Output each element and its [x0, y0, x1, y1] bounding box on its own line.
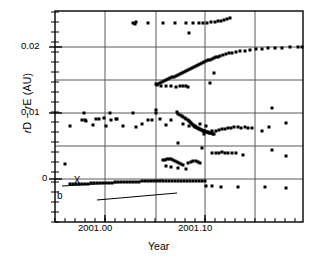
data-point — [186, 180, 189, 183]
data-point — [141, 123, 144, 126]
data-point — [235, 51, 238, 54]
data-point — [297, 46, 300, 49]
data-point — [244, 50, 247, 53]
data-point — [261, 130, 264, 133]
data-point — [218, 152, 221, 155]
data-point — [187, 162, 190, 165]
data-point — [185, 22, 188, 25]
data-point — [198, 180, 201, 183]
data-point — [249, 49, 252, 52]
data-point — [211, 185, 214, 188]
data-point — [227, 127, 230, 130]
data-point — [185, 168, 188, 171]
data-point — [175, 86, 178, 89]
data-point — [132, 112, 135, 115]
data-point — [255, 48, 258, 51]
data-point — [211, 152, 214, 155]
data-point — [195, 180, 198, 183]
data-point — [221, 128, 224, 131]
data-point — [182, 123, 185, 126]
data-point — [165, 85, 168, 88]
x-axis-label: Year — [148, 240, 169, 252]
y-axis-label-unit: (AU) — [21, 73, 33, 99]
data-point — [135, 126, 138, 129]
data-point — [289, 46, 292, 49]
data-point — [92, 124, 95, 127]
axis-ticks — [49, 12, 295, 222]
data-point — [165, 124, 168, 127]
data-point — [95, 118, 98, 121]
data-point — [281, 47, 284, 50]
data-point — [224, 128, 227, 131]
data-point — [105, 125, 108, 128]
data-point — [188, 32, 191, 35]
data-point — [271, 149, 274, 152]
data-point — [170, 166, 173, 169]
figure-scatter-plot: X rD − rE (AU) Year 2001.00 2001.10 0.02… — [0, 0, 312, 261]
data-point — [231, 52, 234, 55]
data-point — [237, 126, 240, 129]
data-point — [83, 112, 86, 115]
data-point — [205, 125, 208, 128]
y-axis-label-e: E — [21, 98, 33, 105]
data-point — [165, 180, 168, 183]
data-point — [147, 22, 150, 25]
data-point — [198, 22, 201, 25]
data-point — [206, 22, 209, 25]
data-point — [215, 130, 218, 133]
data-point — [174, 22, 177, 25]
data-point — [274, 47, 277, 50]
annotation-label-a: b — [57, 190, 63, 201]
y-tick-label-0-01: 0.01 — [21, 106, 40, 117]
data-point — [230, 127, 233, 130]
data-point — [81, 119, 84, 122]
data-point — [205, 185, 208, 188]
data-point — [268, 126, 271, 129]
data-point — [180, 180, 183, 183]
data-point — [237, 186, 240, 189]
data-point — [110, 119, 113, 122]
data-point — [192, 180, 195, 183]
data-point — [69, 125, 72, 128]
data-point — [218, 129, 221, 132]
data-point — [116, 118, 119, 121]
data-point — [162, 22, 165, 25]
y-axis-label-d: D — [21, 122, 33, 130]
data-point — [155, 112, 158, 115]
data-point — [183, 180, 186, 183]
series-low-scatter-near-0.002 — [162, 158, 202, 171]
data-point — [235, 152, 238, 155]
data-point — [202, 22, 205, 25]
data-point — [271, 107, 274, 110]
data-point — [147, 119, 150, 122]
data-point — [204, 180, 207, 183]
data-point — [285, 187, 288, 190]
data-point — [159, 118, 162, 121]
data-point — [192, 22, 195, 25]
data-point — [199, 123, 202, 126]
data-point — [261, 48, 264, 51]
data-point — [247, 127, 250, 130]
data-point — [219, 55, 222, 58]
data-point — [182, 85, 185, 88]
data-point — [122, 125, 125, 128]
y-axis-label: rD − rE (AU) — [17, 57, 31, 149]
plot-canvas: X — [0, 0, 312, 261]
data-point — [170, 85, 173, 88]
data-point — [285, 155, 288, 158]
data-point — [160, 85, 163, 88]
data-point — [220, 186, 223, 189]
data-point — [182, 164, 185, 167]
data-point — [239, 50, 242, 53]
data-point — [226, 18, 229, 21]
x-marker: X — [74, 175, 81, 186]
data-point — [192, 160, 195, 163]
data-point — [264, 186, 267, 189]
y-axis-label-r1: r — [21, 130, 33, 134]
data-point — [267, 47, 270, 50]
data-point — [187, 86, 190, 89]
data-point — [170, 119, 173, 122]
data-point — [224, 152, 227, 155]
data-point — [179, 85, 182, 88]
data-point — [109, 112, 112, 115]
